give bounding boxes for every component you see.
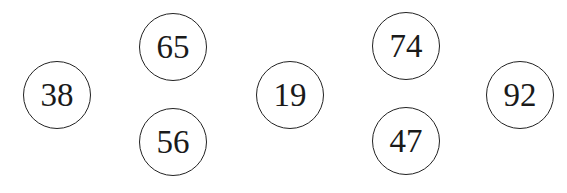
node-92: 92 bbox=[486, 61, 554, 129]
node-38: 38 bbox=[23, 61, 91, 129]
node-19: 19 bbox=[256, 61, 324, 129]
node-label: 47 bbox=[390, 123, 423, 160]
node-label: 74 bbox=[390, 28, 423, 65]
node-74: 74 bbox=[372, 12, 440, 80]
node-65: 65 bbox=[139, 13, 207, 81]
node-label: 65 bbox=[157, 29, 190, 66]
node-label: 19 bbox=[274, 77, 307, 114]
node-47: 47 bbox=[372, 107, 440, 175]
node-label: 92 bbox=[504, 77, 537, 114]
node-56: 56 bbox=[139, 108, 207, 176]
node-label: 38 bbox=[41, 77, 74, 114]
node-label: 56 bbox=[157, 124, 190, 161]
